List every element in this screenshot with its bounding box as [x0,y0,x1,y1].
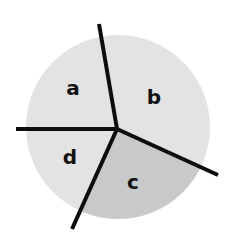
region-label-a: a [66,76,80,100]
region-label-c: c [127,170,139,194]
region-label-b: b [147,85,161,109]
region-label-d: d [63,145,77,169]
divided-circle-diagram: a b c d [0,0,227,245]
